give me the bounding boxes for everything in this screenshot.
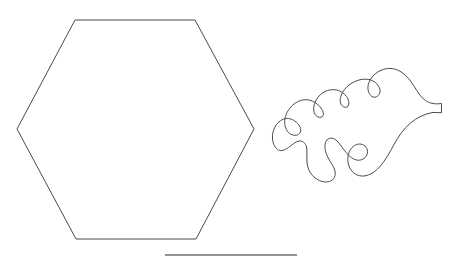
shapes-svg-surface (0, 0, 463, 262)
drawing-canvas (0, 0, 463, 262)
canvas-background (0, 0, 463, 262)
